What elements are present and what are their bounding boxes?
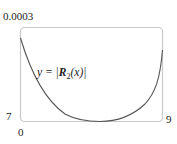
x-max-label: 9 [166,114,172,125]
x-min-label: 7 [6,111,12,122]
equation-prefix: y = | [37,66,59,78]
equation-suffix: (x)| [70,66,86,78]
y-min-label: 0 [18,127,24,138]
curve-equation-label: y = |R2(x)| [37,66,86,81]
y-max-label: 0.0003 [3,11,33,22]
